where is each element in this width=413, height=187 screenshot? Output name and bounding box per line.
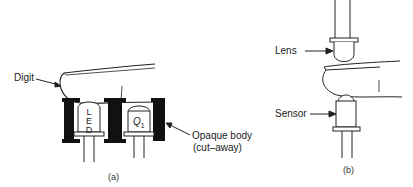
cut-away-label: (cut–away) [193, 142, 242, 153]
opaque-body-label: Opaque body [192, 130, 252, 141]
digit-label: Digit [14, 72, 34, 83]
q1-sensor [124, 106, 154, 158]
led-letter-e: E [85, 117, 93, 125]
panel-b-drawing [305, 0, 402, 158]
led-letter-d: D [85, 126, 93, 134]
q1-label: Q1 [133, 116, 145, 131]
led-letter-l: L [85, 108, 93, 116]
caption-b: (b) [343, 165, 354, 175]
finger-a [60, 64, 165, 103]
q1-subscript: 1 [141, 122, 145, 129]
caption-a: (a) [108, 172, 119, 182]
q1-main: Q [133, 116, 141, 127]
lens-label: Lens [275, 45, 297, 56]
sensor-label: Sensor [275, 108, 307, 119]
diagram-canvas [0, 0, 413, 187]
